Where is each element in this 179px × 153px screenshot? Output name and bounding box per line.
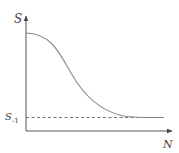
asymptote-label-main: S <box>5 111 12 122</box>
decay-curve <box>26 33 164 118</box>
asymptote-label-sub: -1 <box>12 117 19 125</box>
asymptote-label: S-1 <box>5 112 19 125</box>
y-axis-label: S <box>14 13 22 25</box>
diagram: S N S-1 <box>0 0 179 153</box>
plot-svg <box>0 0 179 153</box>
x-axis-label: N <box>163 139 173 150</box>
